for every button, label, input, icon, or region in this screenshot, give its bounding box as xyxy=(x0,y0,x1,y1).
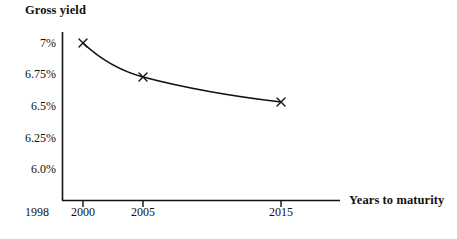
data-series-line xyxy=(83,43,281,102)
y-tick-label-7: 7% xyxy=(10,37,56,49)
x-tick-label-2015: 2015 xyxy=(261,206,301,218)
y-tick-label-60: 6.0% xyxy=(10,163,56,175)
y-axis-title: Gross yield xyxy=(25,4,86,17)
x-tick-label-1998: 1998 xyxy=(17,206,57,218)
x-axis-title: Years to maturity xyxy=(349,194,444,207)
chart-figure: Gross yield Years to maturity 7% 6.75% 6… xyxy=(0,0,457,239)
y-tick-label-625: 6.25% xyxy=(10,132,56,144)
y-tick-label-65: 6.5% xyxy=(10,100,56,112)
x-tick-label-2005: 2005 xyxy=(123,206,163,218)
x-tick-label-2000: 2000 xyxy=(63,206,103,218)
chart-plot-area: Gross yield Years to maturity 7% 6.75% 6… xyxy=(0,0,457,239)
y-tick-label-675: 6.75% xyxy=(10,68,56,80)
data-point-marker-2000 xyxy=(79,39,87,47)
